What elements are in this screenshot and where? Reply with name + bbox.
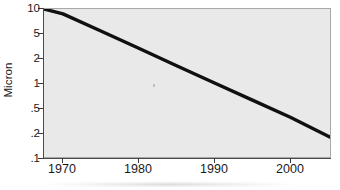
scan-speck (153, 84, 155, 87)
plot-area (43, 8, 331, 158)
x-tick-label: 1990 (200, 162, 228, 176)
series-0-line (44, 9, 331, 138)
scan-shadow (44, 183, 294, 186)
y-tick-label: .5 (16, 102, 40, 114)
y-tick-label: .1 (16, 152, 40, 164)
x-tick-label: 1980 (124, 162, 152, 176)
y-tick-label: 2 (16, 52, 40, 64)
y-tick-labels: 10 5 2 1 .5 .2 .1 (12, 0, 40, 190)
data-line-svg (44, 9, 331, 158)
y-tick-label: 1 (16, 77, 40, 89)
y-tick-label: .2 (16, 127, 40, 139)
chart-figure: Micron 10 5 2 1 (0, 0, 340, 190)
x-tick-marks (63, 158, 291, 163)
y-tick-label: 10 (16, 2, 40, 14)
x-tick-label: 2000 (276, 162, 304, 176)
y-tick-label: 5 (16, 27, 40, 39)
x-tick-label: 1970 (48, 162, 76, 176)
